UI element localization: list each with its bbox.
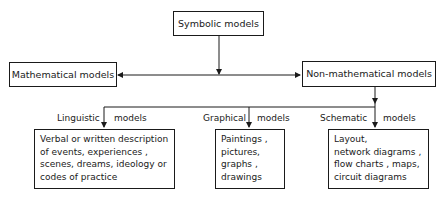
mathematical-models-box: Mathematical models bbox=[9, 62, 117, 87]
non-mathematical-models-label: Non-mathematical models bbox=[306, 68, 432, 80]
schematic-type-label: Schematic bbox=[320, 113, 367, 124]
graphical-models-label: models bbox=[257, 113, 290, 124]
graphical-type-label: Graphical bbox=[203, 113, 246, 124]
linguistic-type-label: Linguistic bbox=[57, 113, 100, 124]
linguistic-models-label: models bbox=[114, 113, 147, 124]
non-mathematical-models-box: Non-mathematical models bbox=[302, 61, 436, 87]
mathematical-models-label: Mathematical models bbox=[12, 69, 114, 81]
linguistic-models-box: Verbal or written description of events,… bbox=[34, 129, 175, 189]
symbolic-models-label: Symbolic models bbox=[178, 18, 259, 30]
schematic-models-box: Layout, network diagrams , flow charts ,… bbox=[328, 129, 429, 189]
symbolic-models-box: Symbolic models bbox=[173, 11, 264, 36]
schematic-models-label: models bbox=[383, 113, 416, 124]
graphical-models-box: Paintings , pictures, graphs , drawings bbox=[215, 129, 285, 189]
